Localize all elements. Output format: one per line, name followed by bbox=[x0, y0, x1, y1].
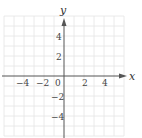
x-axis-label: x bbox=[129, 70, 136, 83]
x-tick-label: 4 bbox=[102, 78, 108, 88]
y-tick-label: 4 bbox=[56, 32, 62, 42]
coordinate-plane: x y −4 −2 0 2 4 4 2 −2 −4 bbox=[0, 0, 142, 138]
y-axis-label: y bbox=[59, 4, 67, 17]
x-tick-label: −2 bbox=[36, 78, 49, 88]
y-tick-label: −4 bbox=[51, 112, 65, 122]
x-axis-arrow-icon bbox=[119, 74, 127, 79]
y-axis-arrow-icon bbox=[62, 18, 67, 26]
y-tick-label: −2 bbox=[51, 92, 64, 102]
y-tick-label: 2 bbox=[56, 52, 62, 62]
origin-label: 0 bbox=[55, 78, 61, 88]
x-tick-label: −4 bbox=[16, 78, 30, 88]
x-tick-label: 2 bbox=[82, 78, 88, 88]
